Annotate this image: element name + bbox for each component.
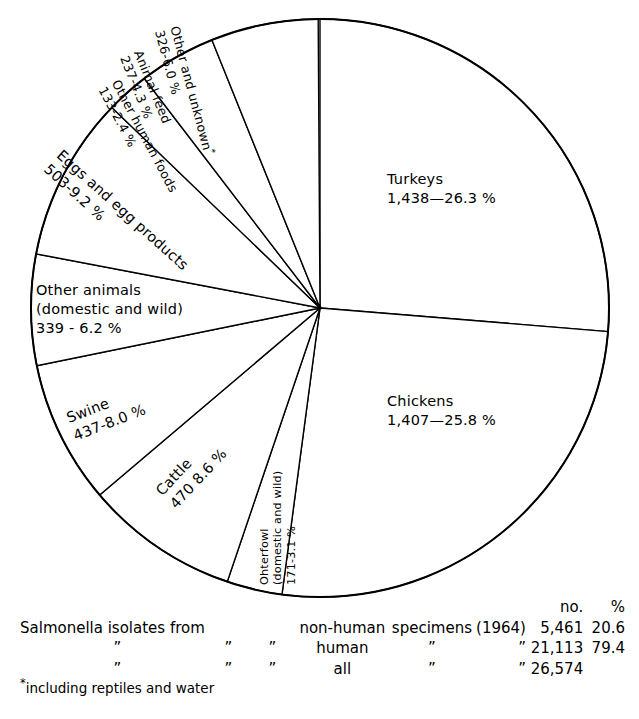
row-percent: [583, 660, 625, 681]
row-kind: human: [293, 639, 392, 660]
row-percent: 20.6: [583, 619, 625, 640]
footnote: *including reptiles and water: [20, 676, 214, 696]
slice-label-other-fowl-value: 171-3.1 %: [285, 471, 298, 585]
row-percent: 79.4: [583, 639, 625, 660]
slice-label-turkeys-value: 1,438—26.3 %: [387, 189, 496, 208]
slice-label-other-animals-sub: (domestic and wild): [36, 300, 183, 319]
table-row: Salmonella isolates from non-human speci…: [20, 619, 625, 640]
row-number: 26,574: [526, 660, 583, 681]
row-year: ”: [472, 639, 526, 660]
summary-table: no. % Salmonella isolates from non-human…: [20, 598, 625, 680]
slice-label-other-fowl: Ohterfowl (domestic and wild) 171-3.1 %: [258, 471, 298, 585]
row-ditto-3: ”: [252, 660, 293, 681]
slice-label-other-fowl-sub: (domestic and wild): [271, 471, 284, 585]
slice-label-chickens-name: Chickens: [387, 392, 496, 411]
pie-slice-chickens: [282, 308, 608, 597]
row-year: (1964): [472, 619, 526, 640]
row-kind: all: [293, 660, 392, 681]
row-number: 21,113: [526, 639, 583, 660]
slice-label-chickens-value: 1,407—25.8 %: [387, 411, 496, 430]
slice-label-chickens: Chickens 1,407—25.8 %: [387, 392, 496, 430]
slice-label-turkeys-name: Turkeys: [387, 170, 496, 189]
row-year: ”: [472, 660, 526, 681]
row-ditto-3: ”: [252, 639, 293, 660]
row-lead-text: Salmonella isolates from: [20, 619, 205, 640]
slice-label-turkeys: Turkeys 1,438—26.3 %: [387, 170, 496, 208]
row-specimens: ”: [392, 660, 472, 681]
table-row: ” ” ” human ” ” 21,113 79.4: [20, 639, 625, 660]
column-header-pct: %: [583, 598, 625, 619]
row-specimens: ”: [392, 639, 472, 660]
slice-label-other-animals-value: 339 - 6.2 %: [36, 319, 183, 338]
row-kind: non-human: [293, 619, 392, 640]
column-header-no: no.: [526, 598, 583, 619]
caption-table: no. % Salmonella isolates from non-human…: [20, 598, 625, 680]
row-number: 5,461: [526, 619, 583, 640]
footnote-text: including reptiles and water: [26, 680, 214, 696]
pie-chart-figure: Turkeys 1,438—26.3 % Chickens 1,407—25.8…: [0, 0, 639, 719]
row-specimens: specimens: [392, 619, 472, 640]
table-header-row: no. %: [20, 598, 625, 619]
row-ditto-2: ”: [205, 639, 252, 660]
slice-label-other-animals-name: Other animals: [36, 281, 183, 300]
row-ditto-1: ”: [20, 639, 205, 660]
slice-label-other-fowl-name: Ohterfowl: [258, 471, 271, 585]
slice-label-other-animals: Other animals (domestic and wild) 339 - …: [36, 281, 183, 338]
